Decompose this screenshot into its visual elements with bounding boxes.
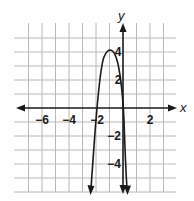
parabola-left-arrow-icon	[88, 185, 95, 195]
y-axis-top-arrow-icon	[120, 23, 127, 32]
y-tick-label: −2	[107, 129, 121, 143]
x-axis-right-arrow-icon	[168, 105, 177, 112]
coordinate-graph: x y −6 −4 −2 2 4 2 −2 −4	[0, 0, 194, 201]
x-axis-left-arrow-icon	[16, 105, 25, 112]
x-tick-labels: −6 −4 −2 2	[35, 113, 154, 127]
x-tick-label: −6	[35, 113, 49, 127]
y-tick-label: −4	[107, 157, 121, 171]
x-tick-label: −4	[62, 113, 76, 127]
y-axis-label: y	[117, 8, 126, 23]
parabola-right-arrow-icon	[124, 186, 131, 196]
x-tick-label: 2	[147, 113, 154, 127]
x-axis-label: x	[179, 100, 187, 115]
